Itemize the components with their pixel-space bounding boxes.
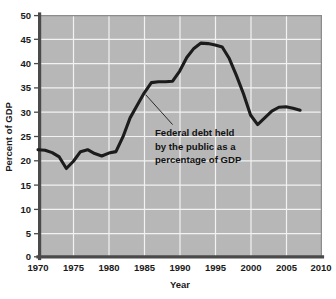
annotation-line-1: Federal debt held [155,127,235,138]
y-tick-label: 30 [20,107,31,118]
annotation-label: Federal debt held by the public as a per… [155,127,242,165]
annotation-line-2: by the public as a [155,141,236,152]
x-tick-label: 1990 [169,262,190,273]
x-tick-label: 2010 [310,262,331,273]
y-tick-label: 50 [20,10,31,21]
x-tick-label: 2005 [276,262,298,273]
x-tick-label: 2000 [240,262,261,273]
y-tick-marks [34,16,38,257]
x-axis-title: Year [170,279,190,290]
y-tick-label: 5 [26,228,32,239]
annotation-line-3: percentage of GDP [155,154,242,165]
y-tick-label: 45 [20,34,31,45]
y-tick-label: 15 [20,180,31,191]
y-axis-title: Percent of GDP [3,101,14,171]
y-tick-label: 10 [20,204,31,215]
y-tick-label: 20 [20,155,31,166]
y-tick-label: 0 [26,251,31,262]
chart-figure: 50 45 40 35 30 25 20 15 10 5 0 1970 1975… [0,0,336,299]
x-tick-label: 1970 [27,262,48,273]
y-tick-label: 25 [20,131,31,142]
x-tick-label: 1980 [98,262,119,273]
y-tick-label: 40 [20,58,31,69]
x-tick-label: 1995 [205,262,227,273]
x-tick-label: 1975 [63,262,85,273]
x-tick-label: 1985 [134,262,156,273]
y-tick-label: 35 [20,82,31,93]
